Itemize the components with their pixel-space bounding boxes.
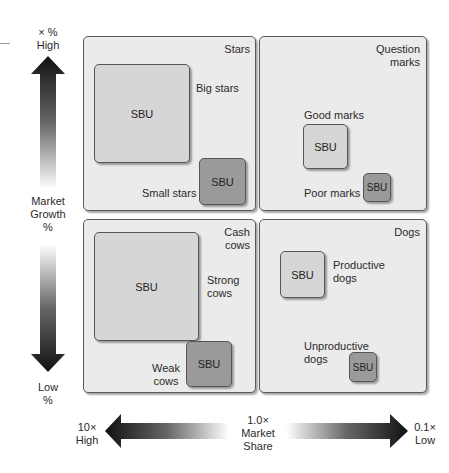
cows-title-line1: Cash bbox=[200, 226, 250, 239]
sbu-small-stars[interactable]: SBU bbox=[199, 158, 246, 205]
weak-cows-label: Weak cows bbox=[148, 362, 184, 388]
y-high-multiplier: × % bbox=[28, 26, 68, 39]
sbu-label: SBU bbox=[314, 141, 337, 153]
productive-dogs-label: Productive dogs bbox=[333, 259, 385, 285]
right-arrow-icon bbox=[286, 412, 410, 450]
cows-title-line2: cows bbox=[200, 239, 250, 252]
sbu-strong-cows[interactable]: SBU bbox=[94, 232, 199, 341]
sbu-label: SBU bbox=[131, 108, 154, 120]
question-marks-title: Question marks bbox=[350, 43, 420, 69]
poor-marks-label: Poor marks bbox=[304, 187, 360, 200]
x-low-multiplier: 0.1× bbox=[408, 421, 442, 434]
y-low-percent: % bbox=[28, 394, 68, 407]
y-axis-low-label: Low % bbox=[28, 381, 68, 407]
strong-cows-label: Strong cows bbox=[207, 274, 239, 300]
sbu-unproductive-dogs[interactable]: SBU bbox=[349, 352, 377, 382]
down-arrow-icon bbox=[29, 244, 67, 374]
x-high-text: High bbox=[70, 434, 104, 447]
decorative-line bbox=[0, 43, 10, 44]
small-stars-label: Small stars bbox=[142, 187, 196, 200]
question-title-line1: Question bbox=[350, 43, 420, 56]
sbu-label: SBU bbox=[135, 281, 158, 293]
sbu-label: SBU bbox=[211, 176, 234, 188]
x-axis-low-label: 0.1× Low bbox=[408, 421, 442, 447]
stars-title: Stars bbox=[200, 43, 250, 56]
productive-dogs-line1: Productive bbox=[333, 259, 385, 272]
strong-cows-line1: Strong bbox=[207, 274, 239, 287]
dogs-title: Dogs bbox=[370, 226, 420, 239]
x-axis-title: 1.0× Market Share bbox=[230, 414, 286, 453]
y-axis-percent: % bbox=[20, 221, 76, 234]
sbu-label: SBU bbox=[353, 362, 374, 373]
x-axis-share: Share bbox=[230, 440, 286, 453]
question-title-line2: marks bbox=[350, 56, 420, 69]
x-low-text: Low bbox=[408, 434, 442, 447]
cash-cows-title: Cash cows bbox=[200, 226, 250, 252]
x-axis-multiplier: 1.0× bbox=[230, 414, 286, 427]
y-axis-growth: Growth bbox=[20, 208, 76, 221]
strong-cows-line2: cows bbox=[207, 287, 239, 300]
y-axis-high-label: × % High bbox=[28, 26, 68, 52]
sbu-big-stars[interactable]: SBU bbox=[94, 64, 190, 163]
sbu-label: SBU bbox=[291, 269, 314, 281]
x-axis-market: Market bbox=[230, 427, 286, 440]
sbu-poor-marks[interactable]: SBU bbox=[363, 173, 391, 202]
productive-dogs-line2: dogs bbox=[333, 272, 385, 285]
y-high-text: High bbox=[28, 39, 68, 52]
weak-cows-line1: Weak bbox=[148, 362, 184, 375]
left-arrow-icon bbox=[103, 412, 229, 450]
y-axis-market: Market bbox=[20, 195, 76, 208]
x-high-multiplier: 10× bbox=[70, 421, 104, 434]
up-arrow-icon bbox=[29, 54, 67, 189]
y-low-text: Low bbox=[28, 381, 68, 394]
sbu-label: SBU bbox=[198, 358, 221, 370]
sbu-weak-cows[interactable]: SBU bbox=[186, 341, 232, 387]
x-axis-high-label: 10× High bbox=[70, 421, 104, 447]
sbu-good-marks[interactable]: SBU bbox=[303, 124, 348, 169]
quadrant-dogs bbox=[259, 219, 427, 393]
y-axis-title: Market Growth % bbox=[20, 195, 76, 234]
good-marks-label: Good marks bbox=[304, 109, 364, 122]
big-stars-label: Big stars bbox=[196, 82, 239, 95]
sbu-label: SBU bbox=[367, 182, 388, 193]
weak-cows-line2: cows bbox=[148, 375, 184, 388]
sbu-productive-dogs[interactable]: SBU bbox=[280, 251, 325, 298]
